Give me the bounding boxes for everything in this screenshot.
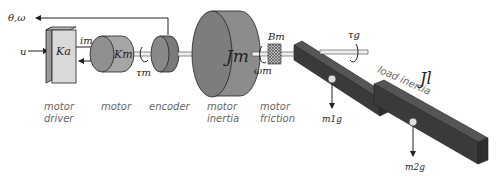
feedback-label: θ,ω (8, 12, 25, 23)
caption-motor-inertia-line2: inertia (207, 113, 239, 124)
weight-1-label: m1g (322, 114, 342, 124)
motor-speed-label: ωm (254, 65, 272, 76)
link-1-com-icon (328, 75, 336, 83)
caption-motor-inertia-line1: motor (207, 101, 238, 112)
motor-driver: Ka (46, 27, 76, 83)
caption-motor-friction-line1: motor (260, 101, 291, 112)
encoder (151, 36, 179, 72)
caption-motor-driver-line1: motor (44, 101, 75, 112)
component-captions: motor driver motor encoder motor inertia… (44, 101, 295, 124)
input-label: u (20, 46, 26, 57)
link-2: m2g (374, 80, 488, 172)
friction-element (268, 44, 281, 64)
motor-inertia: Jm (192, 11, 260, 97)
motor-inertia-label: Jm (223, 46, 249, 66)
gravity-torque-label: τg (348, 29, 360, 40)
caption-motor-friction-line2: friction (260, 113, 295, 124)
feedback-signal: θ,ω (8, 12, 168, 35)
driver-gain-label: Ka (55, 45, 71, 58)
caption-motor: motor (101, 101, 132, 112)
caption-encoder: encoder (149, 101, 191, 112)
motor-constant-label: Km (113, 48, 133, 61)
motor: Km (90, 36, 134, 72)
caption-motor-driver-line2: driver (44, 113, 74, 124)
motor-friction-label: Bm (267, 31, 285, 42)
joint-shaft (320, 50, 368, 54)
drivetrain-diagram: θ,ω u Ka im Km τm Jm ωm (0, 0, 500, 180)
input-signal: u (20, 46, 48, 57)
motor-torque-label: τm (136, 67, 151, 78)
current-label: im (80, 35, 93, 46)
weight-2-label: m2g (405, 162, 425, 172)
link-2-com-icon (409, 118, 417, 126)
load-inertia-label: Jl (417, 69, 432, 88)
